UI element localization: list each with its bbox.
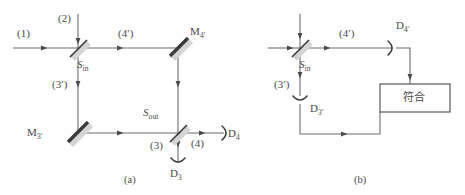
label-mirror-m3prime-sub: 3′ [37,132,43,141]
beam-input-vertical-b [298,14,303,48]
optics-figure: (1) (2) (3′) (4′) (3) (4) Sin Sout M3′ M… [0,0,465,195]
label-detector-d4: D4 [228,128,240,139]
label-detector-d3prime-letter: D [310,102,318,114]
label-beam-4: (4) [191,138,204,149]
label-beam-4prime: (4′) [118,28,134,39]
label-splitter-sout-a-letter: S [143,106,149,118]
label-detector-d3-sub: 3 [178,173,182,182]
label-beam-2: (2) [58,13,71,24]
panel-b-caption: (b) [354,174,366,185]
label-mirror-m4prime-sub: 4′ [200,31,206,40]
beam-path-4prime [78,46,178,51]
beam-m4prime-to-sout [176,48,181,133]
coincidence-box-label: 符合 [403,92,425,103]
label-beam-3prime-b: (3′) [274,79,290,90]
beam-splitter-sin-a [70,40,89,59]
beam-input-1 [13,46,78,51]
label-mirror-m4prime: M4′ [190,26,205,37]
beam-path-4prime-b [300,46,392,51]
label-detector-d3-letter: D [170,167,178,179]
label-beam-1: (1) [17,28,30,39]
label-splitter-sin-b-sub: in [305,64,311,73]
wire-d4prime-to-coincidence [396,48,412,84]
label-detector-d4-sub: 4 [236,133,240,142]
beam-m3prime-to-sout [78,131,178,136]
label-detector-d3prime: D3′ [310,103,324,114]
label-splitter-sin-a: Sin [77,59,89,70]
label-beam-4prime-b: (4′) [339,28,355,39]
beam-input-horizontal-b [268,46,300,51]
label-mirror-m3prime-letter: M [27,126,37,138]
label-detector-d4prime-letter: D [396,19,404,31]
label-mirror-m3prime: M3′ [27,127,42,138]
label-mirror-m4prime-letter: M [190,25,200,37]
detector-d3prime-symbol [293,96,307,100]
label-splitter-sin-a-sub: in [83,64,89,73]
label-splitter-sout-a: Sout [143,107,159,118]
label-detector-d4prime-sub: 4′ [404,25,410,34]
label-detector-d4prime: D4′ [396,20,410,31]
beam-splitter-sin-b [292,40,311,59]
label-detector-d4-letter: D [228,127,236,139]
label-detector-d3prime-sub: 3′ [318,108,324,117]
label-splitter-sin-b-letter: S [299,58,305,70]
label-splitter-sin-b: Sin [299,59,311,70]
beam-input-2 [76,14,81,48]
label-splitter-sout-a-sub: out [149,112,159,121]
panel-a-caption: (a) [124,174,136,185]
panel-b-diagram [268,14,450,136]
label-beam-3prime: (3′) [52,79,68,90]
label-beam-3: (3) [150,140,163,151]
label-splitter-sin-a-letter: S [77,58,83,70]
label-detector-d3: D3 [170,168,182,179]
